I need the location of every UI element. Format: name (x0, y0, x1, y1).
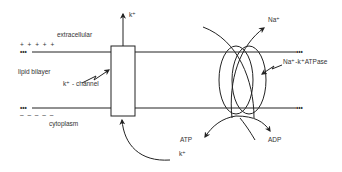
dots-bottom-left: ••• (20, 104, 27, 111)
k-in-label: k⁺ (179, 150, 186, 158)
na-out-label: Na⁺ (268, 16, 280, 24)
negative-charges: – – – – – (20, 111, 54, 118)
cytoplasm-label: cytoplasm (49, 120, 78, 127)
atp-label: ATP (180, 136, 192, 143)
k-channel-label: k⁺ - channel (63, 80, 99, 88)
lipid-bilayer-label: lipid bilayer (18, 68, 51, 75)
atpase-lower-curve (240, 118, 255, 140)
k-channel-box (111, 46, 135, 116)
extracellular-label: extracellular (57, 31, 92, 38)
dots-bottom-right: ••• (296, 104, 303, 111)
adp-label: ADP (268, 136, 281, 143)
atp-arrow (205, 116, 236, 137)
dots-top-left: ••• (20, 48, 27, 55)
na-crossing-curve (203, 27, 254, 118)
membrane-diagram (0, 0, 342, 172)
dots-top-right: ••• (296, 48, 303, 55)
adp-arrow (236, 116, 270, 131)
k-out-label: k⁺ (129, 11, 136, 19)
positive-charges: + + + + + (20, 41, 55, 48)
k-influx-arrow (122, 120, 170, 160)
atpase-ellipse-left (219, 46, 253, 114)
atpase-label: Na⁺-k⁺ATPase (283, 58, 327, 66)
